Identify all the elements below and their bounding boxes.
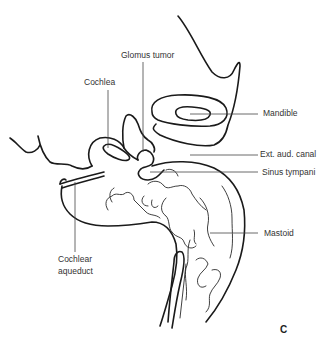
mastoid-cells-13	[194, 230, 196, 244]
mastoid-cells-6	[222, 186, 233, 258]
label-mandible: Mandible	[263, 108, 298, 119]
mastoid-cells-10	[151, 200, 158, 208]
mandible-condyle-inner	[176, 107, 211, 121]
mastoid-cells-5	[200, 198, 214, 246]
label-sinus-tympani: Sinus tympani	[262, 167, 315, 178]
cochlea-outer	[89, 137, 138, 166]
petrous-upper-contour	[10, 138, 40, 153]
mastoid-cells-12	[185, 240, 190, 300]
label-glomus-tumor: Glomus tumor	[121, 50, 174, 61]
glomus-tumor-mass	[137, 150, 164, 180]
panel-letter: C	[280, 324, 287, 335]
mastoid-cells-7	[196, 258, 208, 287]
label-cochlear-aqueduct-line2: aqueduct	[58, 266, 93, 277]
mandible-condyle-outer	[152, 95, 227, 126]
label-cochlear-aqueduct-line1: Cochlear	[58, 254, 92, 265]
mastoid-cells-9	[142, 196, 148, 206]
cochlea-inner	[103, 144, 129, 160]
mastoid-cells-4	[162, 198, 197, 248]
label-cochlea: Cochlea	[84, 77, 115, 88]
petrous-left-contour	[38, 136, 92, 169]
mastoid-cells-3	[148, 181, 206, 210]
promontory	[123, 115, 155, 152]
mastoid-cells-11	[166, 169, 178, 176]
label-ext-aud-canal: Ext. aud. canal	[260, 149, 316, 160]
anatomy-diagram: Glomus tumor Cochlea Mandible Ext. aud. …	[0, 0, 328, 344]
ext-aud-canal-floor	[152, 162, 245, 322]
label-mastoid: Mastoid	[264, 228, 294, 239]
